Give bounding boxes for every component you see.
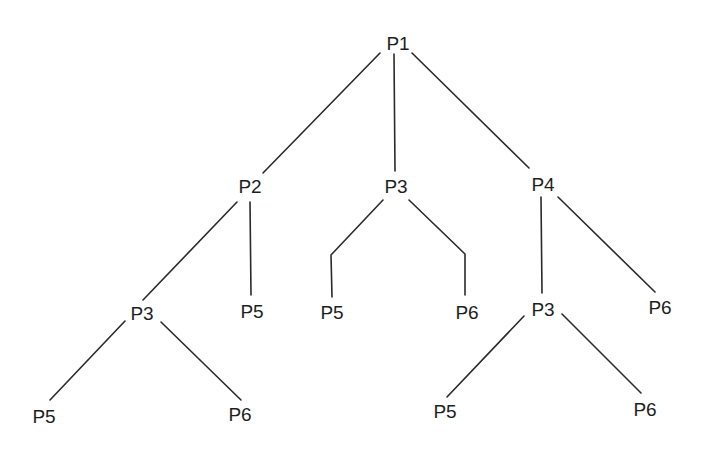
node-p3-under-p2: P3 [130, 303, 153, 324]
tree-diagram: P1 P2 P3 P4 P3 P5 P5 P6 P3 P6 P5 P6 P5 P… [0, 0, 706, 452]
edge-p1-to-p2 [263, 53, 380, 173]
edge-p2-to-p3 [143, 202, 237, 300]
edge-p4-to-p6 [558, 197, 655, 292]
node-p6-under-p3: P6 [455, 302, 478, 323]
edge-p3-to-p5 [331, 200, 383, 297]
node-p5-under-p2: P5 [240, 301, 263, 322]
node-p6-leaf-right: P6 [633, 399, 656, 420]
node-p5-leaf-right: P5 [433, 401, 456, 422]
edge-p4-to-p3 [541, 197, 542, 293]
edge-p3-to-p6 [409, 200, 465, 295]
edge-p3c-to-p6 [562, 314, 641, 393]
tree-edges [50, 53, 655, 400]
edge-p3a-to-p5 [50, 321, 125, 400]
edge-p1-to-p3 [394, 54, 395, 171]
edge-p3a-to-p6 [161, 322, 241, 400]
tree-nodes: P1 P2 P3 P4 P3 P5 P5 P6 P3 P6 P5 P6 P5 P… [32, 33, 671, 427]
node-p2: P2 [238, 176, 261, 197]
node-p6-leaf-left: P6 [228, 404, 251, 425]
edge-p3c-to-p5 [447, 316, 524, 397]
edge-p2-to-p5 [250, 202, 251, 295]
node-p4: P4 [531, 174, 555, 195]
node-p5-leaf-left: P5 [32, 406, 55, 427]
node-root-p1: P1 [386, 33, 409, 54]
node-p5-under-p3: P5 [320, 302, 343, 323]
node-p3-under-p4: P3 [531, 299, 554, 320]
edge-p1-to-p4 [412, 53, 529, 168]
node-p6-under-p4: P6 [648, 297, 671, 318]
node-p3-center: P3 [384, 176, 407, 197]
